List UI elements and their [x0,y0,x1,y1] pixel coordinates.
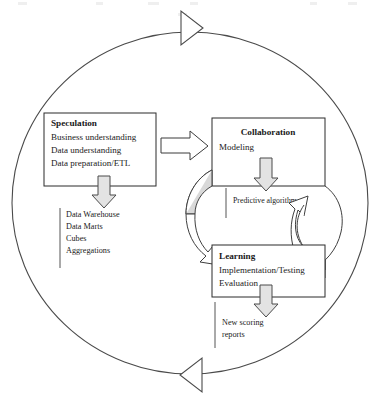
learning-title: Learning [219,251,256,261]
collaboration-line-1: Modeling [219,142,254,152]
scan-artifacts [18,2,357,16]
learning-line-1: Implementation/Testing [219,265,305,275]
learning-output-2: reports [222,330,245,339]
collaboration-title: Collaboration [241,127,296,137]
learning-output-list: New scoring reports [222,318,264,339]
cycle-top-arrow-icon [181,11,203,45]
lifecycle-diagram: Speculation Business understanding Data … [0,0,381,402]
speculation-line-2: Data understanding [51,145,122,155]
speculation-title: Speculation [51,118,97,128]
speculation-line-1: Business understanding [51,132,137,142]
learning-line-2: Evaluation [219,278,258,288]
speculation-output-1: Data Warehouse [66,210,120,219]
speculation-output-3: Cubes [66,234,86,243]
speculation-box[interactable]: Speculation Business understanding Data … [44,113,156,186]
speculation-output-2: Data Marts [66,222,103,231]
diagram-canvas: Speculation Business understanding Data … [0,0,381,402]
learning-output-1: New scoring [222,318,264,327]
speculation-outputs-list: Data Warehouse Data Marts Cubes Aggregat… [66,210,120,255]
cycle-bottom-arrow-icon [180,358,202,392]
speculation-output-4: Aggregations [66,246,110,255]
speculation-line-3: Data preparation/ETL [51,158,130,168]
collaboration-output-label: Predictive algorithm [233,196,297,205]
speculation-to-collaboration-arrow-icon [161,131,208,160]
